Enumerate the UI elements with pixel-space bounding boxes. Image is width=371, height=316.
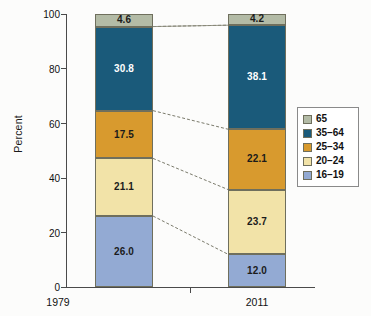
- bar-segment: 21.1: [95, 158, 153, 216]
- x-tick-label-1979: 1979: [23, 296, 93, 308]
- bar-segment: 4.6: [95, 14, 153, 27]
- bar-segment: 17.5: [95, 111, 153, 159]
- segment-value-label: 30.8: [114, 64, 134, 74]
- segment-value-label: 4.6: [117, 15, 131, 25]
- legend-item: 20–24: [303, 154, 354, 168]
- legend-swatch-icon: [303, 157, 312, 166]
- y-tick-label: 100: [34, 10, 60, 20]
- legend: 6535–6425–3420–2416–19: [297, 107, 359, 187]
- legend-swatch-icon: [303, 143, 312, 152]
- y-tick-label: 20: [34, 229, 60, 239]
- legend-swatch-icon: [303, 115, 312, 124]
- y-tick-label: 80: [34, 65, 60, 75]
- segment-value-label: 38.1: [247, 72, 267, 82]
- legend-item: 16–19: [303, 168, 354, 182]
- y-axis-title: Percent: [12, 94, 24, 174]
- y-tick-label: 60: [34, 120, 60, 130]
- segment-value-label: 26.0: [114, 247, 134, 257]
- legend-swatch-icon: [303, 171, 312, 180]
- y-tick-label: 0: [34, 283, 60, 293]
- stacked-bar-chart: Percent 100 80 60 40 20 0 26.021.117.530…: [0, 0, 371, 316]
- bar-segment: 30.8: [95, 27, 153, 111]
- segment-value-label: 17.5: [114, 130, 134, 140]
- legend-label: 16–19: [316, 170, 344, 180]
- y-tick-label: 40: [34, 174, 60, 184]
- bar-segment: 4.2: [228, 14, 286, 25]
- legend-label: 20–24: [316, 156, 344, 166]
- segment-value-label: 22.1: [247, 154, 267, 164]
- legend-label: 65: [316, 114, 327, 124]
- bar-2011: 12.023.722.138.14.2: [228, 14, 286, 287]
- segment-value-label: 12.0: [247, 266, 267, 276]
- legend-item: 25–34: [303, 140, 354, 154]
- x-tick-mark: [190, 288, 191, 293]
- legend-label: 25–34: [316, 142, 344, 152]
- y-axis-tick-labels: 100 80 60 40 20 0: [32, 0, 60, 316]
- bar-1979: 26.021.117.530.84.6: [95, 14, 153, 287]
- segment-value-label: 21.1: [114, 182, 134, 192]
- legend-item: 35–64: [303, 126, 354, 140]
- plot-area: 26.021.117.530.84.6 12.023.722.138.14.2: [66, 14, 315, 287]
- bar-segment: 26.0: [95, 216, 153, 287]
- x-tick-label-2011: 2011: [222, 296, 292, 308]
- bar-segment: 23.7: [228, 190, 286, 255]
- segment-value-label: 4.2: [250, 14, 264, 24]
- legend-swatch-icon: [303, 129, 312, 138]
- legend-item: 65: [303, 112, 354, 126]
- legend-label: 35–64: [316, 128, 344, 138]
- segment-value-label: 23.7: [247, 217, 267, 227]
- bar-segment: 38.1: [228, 25, 286, 129]
- bar-segment: 12.0: [228, 254, 286, 287]
- bar-segment: 22.1: [228, 129, 286, 189]
